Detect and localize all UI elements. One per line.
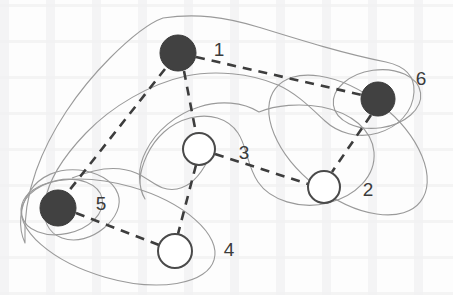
edge-6-2 <box>332 115 371 172</box>
node-layer <box>40 35 395 268</box>
edge-1-5 <box>68 69 165 192</box>
node-4[interactable] <box>158 234 192 268</box>
node-label-6: 6 <box>416 68 427 89</box>
edge-3-4 <box>178 165 196 234</box>
graph-diagram: 1 2 3 4 5 6 <box>0 0 453 295</box>
node-label-5: 5 <box>96 193 107 214</box>
edge-5-4 <box>76 213 159 245</box>
node-3[interactable] <box>183 133 215 165</box>
node-label-4: 4 <box>224 239 235 260</box>
diagram-canvas: 1 2 3 4 5 6 <box>0 0 453 295</box>
node-2[interactable] <box>308 171 340 203</box>
edge-3-2 <box>215 154 308 184</box>
node-1[interactable] <box>160 35 196 71</box>
node-6[interactable] <box>361 82 395 116</box>
node-label-2: 2 <box>363 179 374 200</box>
node-label-3: 3 <box>239 142 250 163</box>
edge-layer <box>68 57 371 245</box>
node-label-1: 1 <box>214 39 225 60</box>
edge-1-6 <box>196 57 362 95</box>
edge-1-3 <box>184 71 196 133</box>
node-5[interactable] <box>40 190 76 226</box>
